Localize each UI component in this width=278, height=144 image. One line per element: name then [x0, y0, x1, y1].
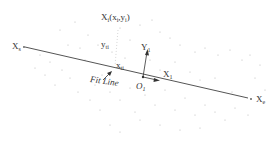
- fit-line-diagram: Xi(xi,yi) yti Xs Xe xti O1 Y1 X1 Fit Lin…: [0, 0, 278, 144]
- start-point: [23, 46, 25, 48]
- end-label: Xe: [256, 95, 265, 107]
- scatter-points: [34, 17, 265, 132]
- foot-label: xti: [116, 61, 124, 73]
- origin-point: [142, 76, 144, 78]
- y-distance-label: yti: [101, 40, 109, 52]
- y1-label: Y1: [141, 43, 151, 55]
- origin-label: O1: [136, 82, 146, 94]
- end-point: [250, 98, 252, 100]
- x1-label: X1: [163, 70, 173, 82]
- diagram-graphics: [0, 0, 278, 144]
- point-label: Xi(xi,yi): [101, 13, 130, 25]
- start-label: Xs: [12, 42, 21, 54]
- x1-arrow-icon: [154, 78, 161, 82]
- y1-axis: [143, 52, 147, 77]
